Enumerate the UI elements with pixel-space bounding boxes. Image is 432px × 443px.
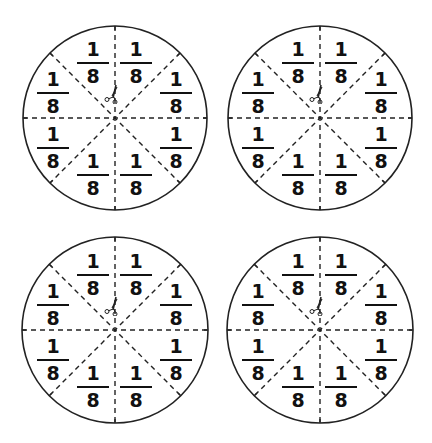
fraction-numerator: 1	[281, 364, 315, 383]
fraction-numerator: 1	[119, 364, 153, 383]
fraction-denominator: 8	[36, 97, 70, 116]
fraction-bar	[77, 174, 109, 176]
fraction-denominator: 8	[159, 152, 193, 171]
fraction-numerator: 1	[241, 125, 275, 144]
fraction-label-right-lower: 18	[364, 125, 398, 171]
edge-tick	[254, 393, 257, 396]
fraction-circle-1: 1818181818181818	[15, 18, 215, 218]
fraction-bar	[77, 62, 109, 64]
scissors-icon	[309, 84, 327, 104]
fraction-denominator: 8	[241, 364, 275, 383]
fraction-label-right-upper: 18	[159, 282, 193, 328]
fraction-numerator: 1	[364, 70, 398, 89]
edge-tick	[382, 180, 385, 183]
fraction-bar	[282, 174, 314, 176]
fraction-bar	[120, 62, 152, 64]
fraction-bar	[37, 359, 69, 361]
fraction-numerator: 1	[364, 282, 398, 301]
fraction-bar	[120, 274, 152, 276]
fraction-denominator: 8	[324, 179, 358, 198]
fraction-label-left-upper: 18	[36, 282, 70, 328]
fraction-numerator: 1	[324, 152, 358, 171]
fraction-numerator: 1	[324, 364, 358, 383]
fraction-denominator: 8	[36, 364, 70, 383]
fraction-circle-4: 1818181818181818	[220, 230, 420, 430]
fraction-denominator: 8	[324, 391, 358, 410]
fraction-bar	[325, 174, 357, 176]
fraction-denominator: 8	[241, 97, 275, 116]
edge-tick	[49, 264, 52, 267]
edge-tick	[254, 264, 257, 267]
fraction-denominator: 8	[364, 309, 398, 328]
fraction-bar	[242, 92, 274, 94]
fraction-numerator: 1	[241, 70, 275, 89]
fraction-denominator: 8	[76, 179, 110, 198]
fraction-numerator: 1	[36, 125, 70, 144]
fraction-denominator: 8	[281, 67, 315, 86]
fraction-label-bottom-left: 18	[281, 152, 315, 198]
fraction-label-right-lower: 18	[159, 337, 193, 383]
fraction-denominator: 8	[119, 179, 153, 198]
fraction-label-left-lower: 18	[241, 337, 275, 383]
fraction-numerator: 1	[119, 252, 153, 271]
fraction-denominator: 8	[119, 279, 153, 298]
fraction-bar	[160, 304, 192, 306]
fraction-bar	[365, 147, 397, 149]
scissors-icon	[104, 84, 122, 104]
fraction-bar	[282, 62, 314, 64]
fraction-numerator: 1	[281, 252, 315, 271]
fraction-bar	[242, 359, 274, 361]
fraction-label-left-upper: 18	[241, 70, 275, 116]
fraction-bar	[282, 386, 314, 388]
fraction-label-top-left: 18	[281, 40, 315, 86]
fraction-denominator: 8	[76, 391, 110, 410]
edge-tick	[383, 393, 386, 396]
fraction-bar	[120, 386, 152, 388]
fraction-denominator: 8	[159, 309, 193, 328]
fraction-denominator: 8	[281, 179, 315, 198]
fraction-numerator: 1	[76, 252, 110, 271]
fraction-bar	[77, 386, 109, 388]
fraction-bar	[160, 147, 192, 149]
fraction-label-bottom-right: 18	[324, 364, 358, 410]
fraction-denominator: 8	[241, 152, 275, 171]
fraction-denominator: 8	[281, 391, 315, 410]
fraction-bar	[242, 304, 274, 306]
fraction-numerator: 1	[119, 40, 153, 59]
fraction-denominator: 8	[119, 391, 153, 410]
fraction-numerator: 1	[159, 282, 193, 301]
fraction-circle-3: 1818181818181818	[15, 230, 215, 430]
fraction-label-bottom-left: 18	[76, 364, 110, 410]
fraction-bar	[325, 62, 357, 64]
fraction-numerator: 1	[241, 282, 275, 301]
fraction-denominator: 8	[324, 67, 358, 86]
fraction-label-bottom-left: 18	[281, 364, 315, 410]
fraction-denominator: 8	[364, 152, 398, 171]
fraction-denominator: 8	[364, 364, 398, 383]
fraction-label-top-left: 18	[76, 40, 110, 86]
fraction-denominator: 8	[241, 309, 275, 328]
fraction-numerator: 1	[76, 152, 110, 171]
fraction-label-right-lower: 18	[364, 337, 398, 383]
fraction-numerator: 1	[324, 252, 358, 271]
fraction-label-left-upper: 18	[241, 282, 275, 328]
fraction-bar	[325, 274, 357, 276]
fraction-label-bottom-right: 18	[119, 152, 153, 198]
fraction-bar	[77, 274, 109, 276]
edge-tick	[178, 393, 181, 396]
circle-outline-and-cut-lines	[15, 18, 215, 218]
fraction-bar	[282, 274, 314, 276]
fraction-label-bottom-left: 18	[76, 152, 110, 198]
fraction-bar	[365, 92, 397, 94]
fraction-numerator: 1	[324, 40, 358, 59]
fraction-numerator: 1	[36, 70, 70, 89]
fraction-label-left-lower: 18	[36, 125, 70, 171]
fraction-numerator: 1	[364, 125, 398, 144]
fraction-bar	[37, 92, 69, 94]
fraction-denominator: 8	[76, 279, 110, 298]
fraction-bar	[37, 304, 69, 306]
fraction-bar	[365, 359, 397, 361]
fraction-numerator: 1	[159, 70, 193, 89]
fraction-label-left-upper: 18	[36, 70, 70, 116]
fraction-denominator: 8	[36, 309, 70, 328]
